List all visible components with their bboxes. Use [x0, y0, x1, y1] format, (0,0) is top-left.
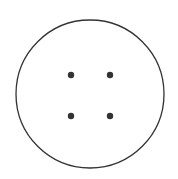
- button-hole-dot: [68, 72, 74, 78]
- button-hole-dot: [107, 113, 113, 119]
- button-holes: [68, 72, 113, 119]
- button-outline-circle: [16, 20, 164, 168]
- button-diagram: [0, 0, 178, 179]
- button-hole-dot: [107, 72, 113, 78]
- button-hole-dot: [68, 113, 74, 119]
